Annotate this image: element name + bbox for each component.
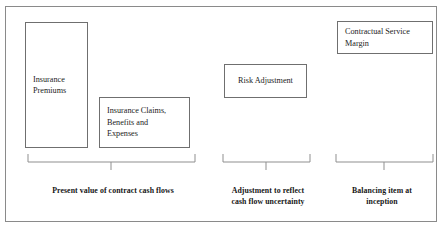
block-insurance-premiums-label: Insurance Premiums bbox=[33, 74, 66, 97]
brace-adjustment-to-reflect-cash-flow-uncertainty bbox=[222, 153, 314, 172]
caption-present-value-text: Present value of contract cash flows bbox=[18, 186, 208, 197]
caption-balancing-item-text: Balancing item at inception bbox=[327, 186, 437, 207]
block-insurance-claims-benefits-expenses-label: Insurance Claims, Benefits and Expenses bbox=[107, 105, 166, 140]
block-contractual-service-margin-label: Contractual Service Margin bbox=[345, 26, 410, 49]
brace-balancing-item-at-inception bbox=[335, 153, 437, 172]
caption-balancing-item-at-inception: Balancing item at inception bbox=[327, 186, 437, 207]
caption-adjustment-to-reflect-cash-flow-uncertainty: Adjustment to reflect cash flow uncertai… bbox=[213, 186, 323, 207]
block-risk-adjustment: Risk Adjustment bbox=[224, 64, 307, 98]
block-contractual-service-margin: Contractual Service Margin bbox=[337, 21, 433, 54]
block-insurance-premiums: Insurance Premiums bbox=[25, 22, 88, 148]
block-risk-adjustment-label: Risk Adjustment bbox=[238, 75, 293, 87]
caption-adjustment-text: Adjustment to reflect cash flow uncertai… bbox=[213, 186, 323, 207]
diagram-canvas: Insurance Premiums Insurance Claims, Ben… bbox=[0, 0, 446, 229]
block-insurance-claims-benefits-expenses: Insurance Claims, Benefits and Expenses bbox=[99, 97, 190, 148]
brace-present-value-of-contract-cash-flows bbox=[27, 153, 199, 172]
caption-present-value-of-contract-cash-flows: Present value of contract cash flows bbox=[18, 186, 208, 197]
